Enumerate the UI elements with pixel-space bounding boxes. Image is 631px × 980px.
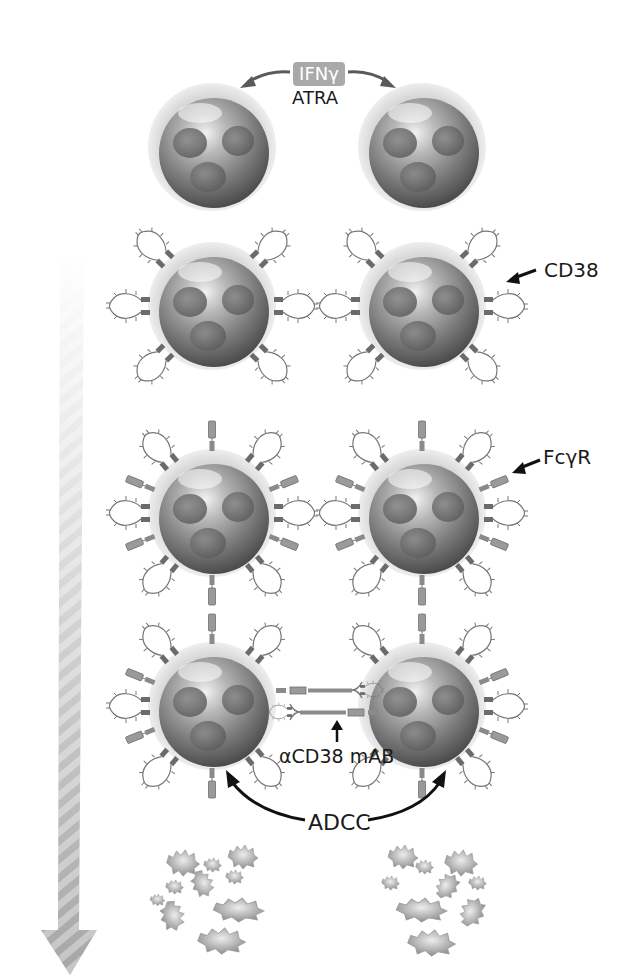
process-arrow	[41, 252, 97, 975]
atra-label: ATRA	[292, 87, 338, 108]
ifn-gamma-badge: IFNγ	[293, 62, 345, 86]
stage-lysed-cells	[150, 845, 489, 956]
fragments-right	[382, 845, 489, 956]
stage-antibody-bridged	[106, 614, 528, 820]
fcgr-pointer-arrow	[512, 460, 540, 474]
stage-fcgr-bound	[106, 421, 540, 605]
fcgr-label: FcγR	[543, 445, 591, 469]
cell-left	[148, 83, 276, 211]
stage-cd38-upregulated	[106, 219, 536, 393]
cell-right	[358, 83, 486, 211]
adcc-label: ADCC	[308, 810, 371, 835]
antibody-label: αCD38 mAB	[279, 745, 394, 767]
cd38-label: CD38	[544, 258, 599, 282]
antibody-pointer-arrow	[331, 720, 343, 742]
cd38-pointer-arrow	[506, 270, 536, 284]
fragments-left	[150, 845, 264, 954]
